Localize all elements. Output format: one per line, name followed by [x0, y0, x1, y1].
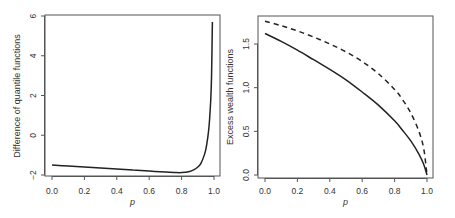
x-axis-label: p: [129, 197, 135, 207]
x-tick-label: 0.4: [111, 186, 123, 196]
x-tick-label: 0.8: [389, 186, 401, 196]
plot-frame: [45, 15, 220, 176]
y-tick-label: 1.0: [241, 81, 251, 93]
x-tick-label: 0.8: [176, 186, 188, 196]
x-tick-label: 0.0: [259, 186, 271, 196]
quantile-difference-plot: 0.00.20.40.60.81.0p−20246Difference of q…: [12, 13, 220, 207]
y-tick-label: −2: [28, 170, 38, 180]
plot-frame: [258, 16, 433, 178]
series-line-dashed: [265, 21, 427, 175]
x-tick-label: 1.0: [208, 186, 220, 196]
x-axis-label: p: [342, 197, 348, 207]
y-axis-label: Difference of quantile functions: [12, 34, 22, 158]
y-tick-label: 6: [28, 13, 38, 18]
x-axis: 0.00.20.40.60.81.0: [259, 178, 433, 196]
y-axis: −20246: [28, 13, 45, 179]
y-tick-label: 0.0: [241, 169, 251, 181]
x-axis: 0.00.20.40.60.81.0: [46, 176, 220, 196]
excess-wealth-plot: 0.00.20.40.60.81.0p0.00.51.01.5Excess we…: [225, 16, 433, 207]
x-tick-label: 0.6: [143, 186, 155, 196]
y-axis: 0.00.51.01.5: [241, 38, 258, 181]
y-tick-label: 0.5: [241, 125, 251, 137]
x-tick-label: 1.0: [421, 186, 433, 196]
x-tick-label: 0.0: [46, 186, 58, 196]
y-tick-label: 2: [28, 93, 38, 98]
x-tick-label: 0.2: [291, 186, 303, 196]
x-tick-label: 0.4: [324, 186, 336, 196]
y-tick-label: 0: [28, 133, 38, 138]
series-line-solid: [265, 34, 427, 175]
series-line-difference: [52, 22, 212, 173]
y-axis-label: Excess wealth functions: [225, 48, 235, 145]
figure: 0.00.20.40.60.81.0p−20246Difference of q…: [0, 0, 455, 218]
x-tick-label: 0.2: [78, 186, 90, 196]
x-tick-label: 0.6: [356, 186, 368, 196]
y-tick-label: 4: [28, 53, 38, 58]
y-tick-label: 1.5: [241, 38, 251, 50]
